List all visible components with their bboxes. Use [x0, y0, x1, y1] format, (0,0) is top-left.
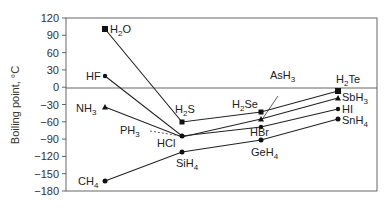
label-hcl: HCl — [157, 137, 175, 149]
marker-dot — [103, 179, 108, 184]
y-tick-label: 120 — [41, 12, 59, 24]
y-tick-label: −150 — [34, 168, 59, 180]
plot-frame — [66, 18, 377, 191]
marker-dot — [336, 107, 340, 111]
y-tick-labels: 120 90 60 30 0 −30 −60 −90 −120 −150 −18… — [34, 12, 59, 197]
group17-line — [105, 76, 338, 136]
label-ph3: PH3 — [120, 124, 140, 139]
y-tick-label: 90 — [47, 29, 59, 41]
marker-dot — [180, 150, 185, 155]
marker-triangle — [335, 95, 341, 101]
boiling-point-chart: 120 90 60 30 0 −30 −60 −90 −120 −150 −18… — [0, 0, 389, 208]
y-tick-label: −120 — [34, 150, 59, 162]
marker-dot — [180, 134, 185, 139]
marker-square — [180, 120, 185, 125]
label-nh3: NH3 — [76, 102, 97, 117]
y-tick-label: −90 — [40, 133, 59, 145]
series-lines — [105, 29, 338, 181]
marker-square — [259, 110, 264, 115]
y-axis-label: Boiling point, °C — [9, 66, 21, 144]
label-ch4: CH4 — [78, 175, 99, 190]
label-snh4: SnH4 — [342, 114, 368, 129]
y-tick-label: −30 — [40, 99, 59, 111]
label-h2se: H2Se — [232, 98, 258, 113]
y-axis — [62, 18, 66, 191]
marker-triangle — [102, 104, 108, 110]
y-tick-label: −60 — [40, 116, 59, 128]
marker-dot — [336, 117, 341, 122]
marker-dot — [103, 74, 107, 78]
label-h2o: H2O — [110, 23, 131, 38]
label-geh4: GeH4 — [251, 146, 279, 161]
y-tick-label: 60 — [47, 47, 59, 59]
markers — [102, 26, 341, 184]
y-tick-label: −180 — [34, 185, 59, 197]
marker-square — [102, 26, 108, 32]
marker-square — [335, 88, 341, 94]
marker-dot — [259, 138, 264, 143]
label-hf: HF — [86, 70, 101, 82]
label-ash3: AsH3 — [270, 69, 296, 84]
y-tick-label: 30 — [47, 64, 59, 76]
label-hbr: HBr — [250, 126, 269, 138]
label-h2s: H2S — [175, 103, 195, 118]
y-tick-label: 0 — [53, 81, 59, 93]
label-sih4: SiH4 — [176, 157, 199, 172]
point-labels: H2O HF NH3 CH4 H2S PH3 HCl SiH4 H2Se AsH… — [76, 23, 368, 190]
label-h2te: H2Te — [336, 73, 360, 88]
